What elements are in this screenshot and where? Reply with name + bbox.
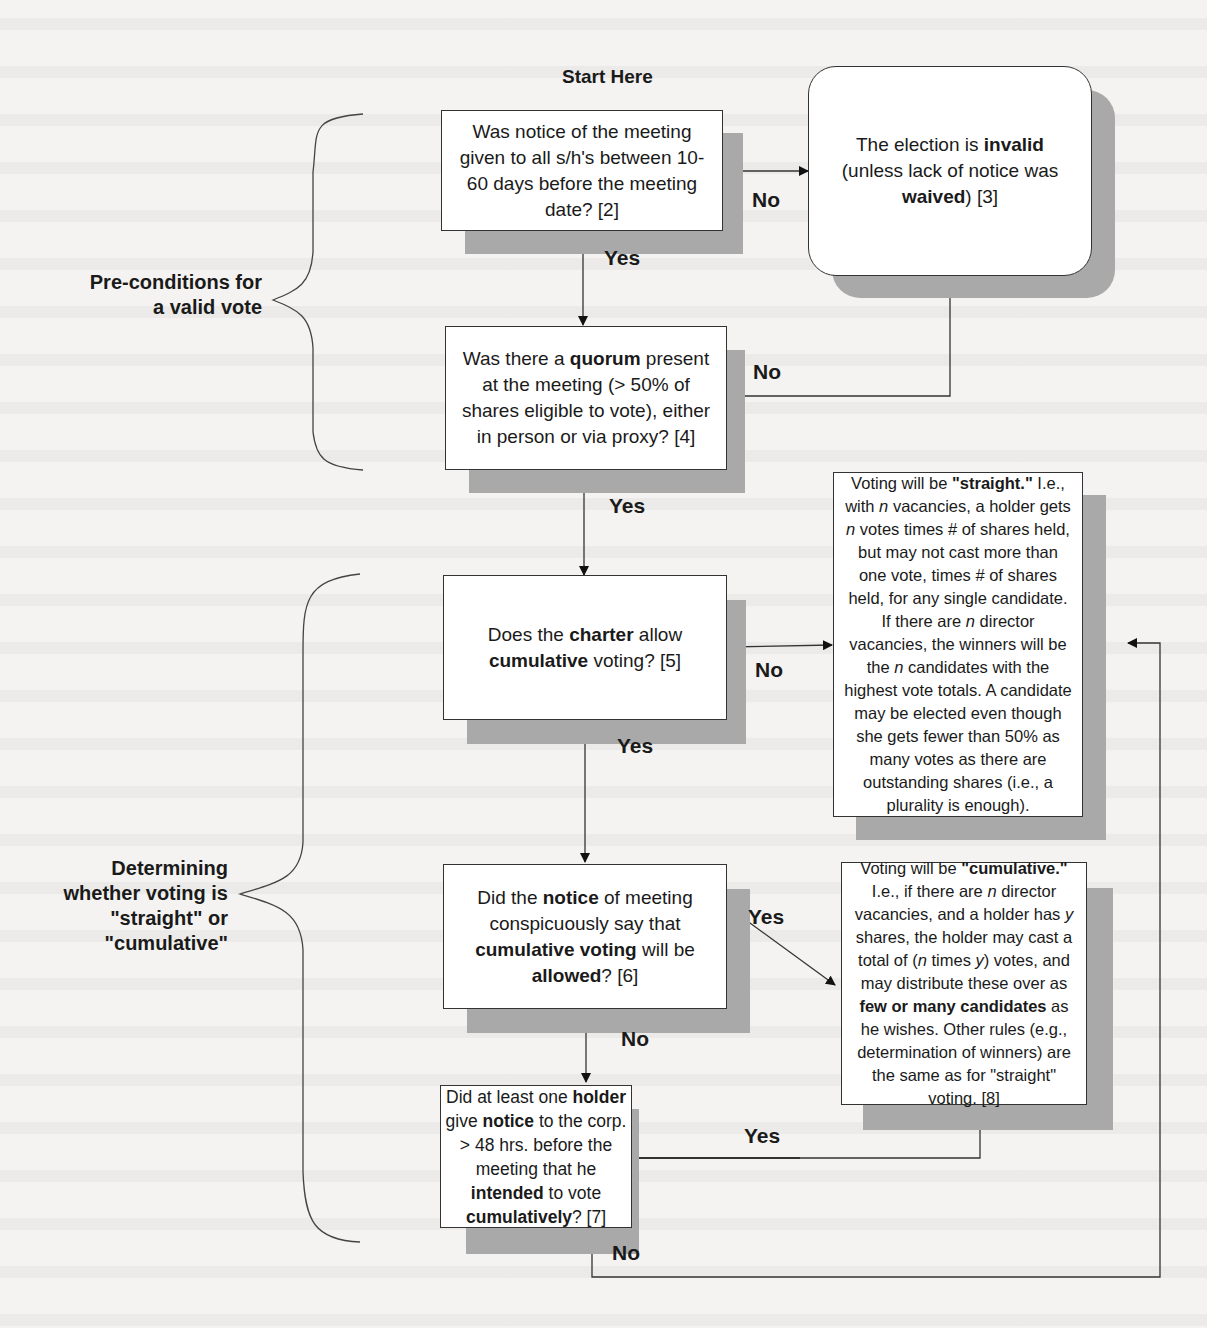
brace-preconditions — [268, 112, 368, 472]
edge-label-holder-yes: Yes — [744, 1124, 780, 1148]
edge-label-holder-no: No — [612, 1241, 640, 1265]
section-label-line: a valid vote — [40, 295, 262, 320]
node-text: Did at least one holder give notice to t… — [445, 1085, 627, 1229]
node-cumulative-outcome: Voting will be "cumulative." I.e., if th… — [841, 862, 1087, 1105]
node-text: Voting will be "cumulative." I.e., if th… — [850, 857, 1078, 1110]
brace-determining — [235, 572, 365, 1244]
node-text: The election is invalid (unless lack of … — [817, 132, 1083, 210]
section-label-line: Determining — [10, 856, 228, 881]
section-label-preconditions: Pre-conditions for a valid vote — [40, 270, 262, 320]
edge-label-notice-yes: Yes — [604, 246, 640, 270]
node-text: Did the notice of meeting conspicuously … — [452, 885, 718, 989]
node-quorum-question: Was there a quorum present at the meetin… — [445, 326, 727, 470]
section-label-line: whether voting is — [10, 881, 228, 906]
node-invalid-outcome: The election is invalid (unless lack of … — [808, 66, 1092, 276]
edge-label-quorum-yes: Yes — [609, 494, 645, 518]
section-label-determining: Determining whether voting is "straight"… — [10, 856, 228, 956]
node-text: Was there a quorum present at the meetin… — [454, 346, 718, 450]
edge-label-charter-no: No — [755, 658, 783, 682]
node-text: Does the charter allow cumulative voting… — [452, 622, 718, 674]
edge-label-charter-yes: Yes — [617, 734, 653, 758]
node-notice-cumulative-question: Did the notice of meeting conspicuously … — [443, 864, 727, 1009]
node-straight-outcome: Voting will be "straight." I.e., with n … — [833, 472, 1083, 817]
node-notice-question: Was notice of the meeting given to all s… — [441, 110, 723, 231]
node-holder-notice-question: Did at least one holder give notice to t… — [440, 1085, 632, 1228]
section-label-line: "cumulative" — [10, 931, 228, 956]
edge-label-notice-cum-yes: Yes — [748, 905, 784, 929]
section-label-line: "straight" or — [10, 906, 228, 931]
start-here-label: Start Here — [562, 66, 653, 88]
edge-label-quorum-no: No — [753, 360, 781, 384]
edge-label-notice-no: No — [752, 188, 780, 212]
edge-label-notice-cum-no: No — [621, 1027, 649, 1051]
node-text: Was notice of the meeting given to all s… — [450, 119, 714, 223]
section-label-line: Pre-conditions for — [40, 270, 262, 295]
node-charter-question: Does the charter allow cumulative voting… — [443, 575, 727, 720]
node-text: Voting will be "straight." I.e., with n … — [842, 472, 1074, 817]
